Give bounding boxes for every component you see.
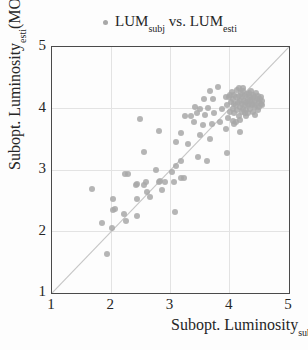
data-point [207, 88, 213, 94]
data-point [207, 136, 213, 142]
data-point [143, 179, 149, 185]
data-point [99, 220, 105, 226]
data-point [162, 179, 168, 185]
data-point [110, 196, 116, 202]
x-tick-label-3: 3 [166, 296, 174, 313]
legend-series-sub1: subj [148, 23, 165, 34]
x-axis-label-text: Subopt. Luminosity [171, 316, 298, 333]
data-point [209, 121, 215, 127]
legend-label: LUMsubj vs. LUMesti [115, 13, 237, 32]
data-point [134, 196, 140, 202]
data-point [112, 206, 118, 212]
y-axis-ticks: 12345 [26, 46, 46, 294]
data-point [210, 96, 216, 102]
data-point [223, 126, 229, 132]
y-axis-label-text: Subopt. Luminosity [6, 43, 23, 170]
data-point [134, 181, 140, 187]
data-point [195, 154, 201, 160]
y-axis-label-sub: esti [17, 29, 28, 43]
x-axis-ticks: 12345 [51, 296, 290, 314]
data-point [191, 119, 197, 125]
x-tick-label-1: 1 [47, 296, 55, 313]
y-tick-label-4: 4 [39, 99, 47, 116]
y-axis-label-suffix: (MOS) [6, 0, 23, 29]
x-tick-label-2: 2 [107, 296, 115, 313]
data-point [178, 158, 184, 164]
x-tick-label-5: 5 [284, 296, 292, 313]
data-point [171, 179, 177, 185]
data-point [201, 96, 207, 102]
legend-series-name1: LUM [115, 13, 148, 29]
y-tick-label-1: 1 [39, 283, 47, 300]
y-tick-label-3: 3 [39, 160, 47, 177]
plot-area [52, 47, 289, 293]
data-point [137, 116, 143, 122]
data-point [104, 251, 110, 257]
y-tick-label-5: 5 [39, 37, 47, 54]
data-point [134, 213, 140, 219]
data-point [197, 132, 203, 138]
legend-series-name2: LUM [190, 13, 223, 29]
x-tick-label-4: 4 [225, 296, 233, 313]
data-point [172, 209, 178, 215]
x-axis-label-sub: subj [298, 327, 308, 338]
data-point [178, 130, 184, 136]
data-point [121, 211, 127, 217]
legend-series-sub2: esti [223, 23, 237, 34]
y-tick-label-2: 2 [39, 222, 47, 239]
plot-frame [51, 46, 290, 294]
data-point [153, 167, 159, 173]
legend-marker-icon [103, 20, 108, 25]
legend-series-middle: vs. [165, 13, 190, 29]
data-point [156, 128, 162, 134]
legend: LUMsubj vs. LUMesti [0, 13, 308, 32]
data-point [237, 129, 243, 135]
